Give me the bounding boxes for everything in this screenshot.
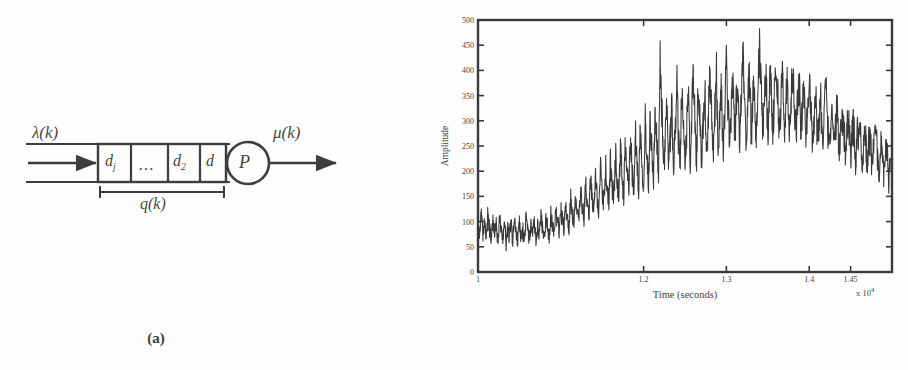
queue-cell-d2: d2 <box>173 153 186 172</box>
y-axis-title: Amplitude <box>440 126 450 167</box>
y-tick-label: 250 <box>462 142 474 151</box>
amplitude-time-chart-svg: 050100150200250300350400450500 11.21.31.… <box>432 6 906 308</box>
x-tick-label: 1.4 <box>804 275 814 284</box>
queue-cell-dj: dj <box>105 153 116 172</box>
queue-cell-ellipsis: … <box>138 157 156 173</box>
y-tick-label: 400 <box>462 66 474 75</box>
x-tick-label: 1.3 <box>721 275 731 284</box>
x-tick-label: 1.45 <box>844 275 858 284</box>
x-axis-title: Time (seconds) <box>653 289 718 301</box>
amplitude-time-chart: 050100150200250300350400450500 11.21.31.… <box>432 6 906 308</box>
panel-b-plot: 050100150200250300350400450500 11.21.31.… <box>428 0 908 370</box>
y-tick-label: 500 <box>462 16 474 25</box>
x-tick-label: 1 <box>476 275 480 284</box>
y-tick-label: 50 <box>466 243 474 252</box>
panel-a-caption: (a) <box>126 330 186 347</box>
y-tick-label: 150 <box>462 192 474 201</box>
server-label: P <box>239 152 250 173</box>
x-tick-label: 1.2 <box>639 275 649 284</box>
panel-a-block-diagram: λ(k) μ(k) q(k) P dj … d2 d (a) <box>0 0 430 370</box>
y-axis-tick-labels: 050100150200250300350400450500 <box>462 16 474 277</box>
y-tick-label: 450 <box>462 41 474 50</box>
input-rate-label: λ(k) <box>32 124 58 141</box>
y-tick-label: 350 <box>462 92 474 101</box>
queue-diagram: λ(k) μ(k) q(k) P dj … d2 d <box>18 112 348 222</box>
figure-root: λ(k) μ(k) q(k) P dj … d2 d (a) <box>0 0 908 370</box>
x-axis-tick-labels: 11.21.31.41.45 <box>476 275 858 284</box>
queue-length-label: q(k) <box>140 196 166 212</box>
y-tick-label: 200 <box>462 167 474 176</box>
y-tick-label: 0 <box>470 268 474 277</box>
output-rate-label: μ(k) <box>273 124 300 141</box>
y-tick-label: 300 <box>462 117 474 126</box>
queue-cell-d1: d <box>206 153 214 172</box>
y-tick-label: 100 <box>462 218 474 227</box>
x-axis-exponent: x 104 <box>856 286 875 298</box>
